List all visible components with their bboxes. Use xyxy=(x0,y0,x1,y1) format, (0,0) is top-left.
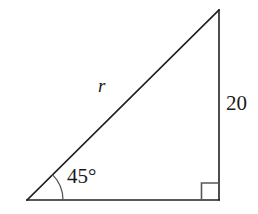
vertical-side-label: 20 xyxy=(226,93,247,114)
right-angle-marker-icon xyxy=(202,183,220,200)
triangle-hypotenuse-line xyxy=(27,10,219,200)
angle-arc-icon xyxy=(53,175,64,200)
hypotenuse-label: r xyxy=(98,76,105,95)
angle-label: 45° xyxy=(67,166,96,187)
triangle-drawing xyxy=(0,0,258,214)
triangle-figure: r 20 45° xyxy=(0,0,258,214)
